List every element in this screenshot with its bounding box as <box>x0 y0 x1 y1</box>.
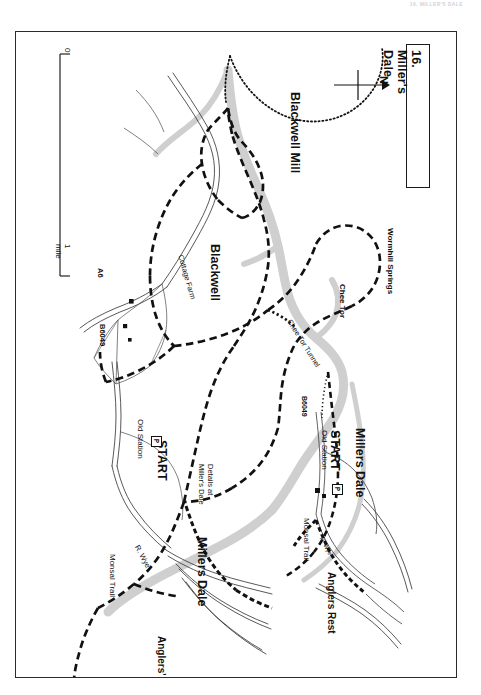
label-inset-road-b6049: B6049 <box>301 396 308 417</box>
inset-note: Details at Miller's Dale <box>196 464 215 505</box>
label-old-station: Old Station <box>136 419 144 459</box>
label-blackwell-mill: Blackwell Mill <box>289 92 302 173</box>
label-anglers-rest: Anglers' Rest <box>156 636 166 678</box>
label-inset-millers-dale: Millers Dale <box>354 428 367 497</box>
north-arrow-icon: N <box>332 62 394 108</box>
scale-bar: 0 1 mile <box>40 48 80 282</box>
label-road-b6049: B6049 <box>99 324 107 346</box>
label-millers-dale: Millers Dale <box>196 537 209 606</box>
inset-note-line2: Miller's Dale <box>196 464 205 505</box>
label-wormhill-springs-line1: Wormhill Springs <box>386 228 394 294</box>
title-cartouche: 16. Miller's Dale <box>406 44 430 188</box>
label-monsal-trail: Monsal Trail <box>108 554 116 597</box>
scale-zero-label: 0 <box>63 48 72 52</box>
parking-symbol-inset-letter: P <box>334 487 342 491</box>
running-head: 16. MILLER'S DALE <box>410 1 463 7</box>
label-inset-anglers-rest: Anglers Rest <box>326 572 336 634</box>
label-blackwell: Blackwell <box>209 244 222 301</box>
label-inset-start: START <box>329 430 342 471</box>
label-chee-tor: Chee Tor <box>338 284 346 318</box>
label-road-a6: A6 <box>97 268 105 278</box>
inset-map-layer: .iwater{fill:none;stroke:#cfcfcf;stroke-… <box>16 32 456 677</box>
inset-note-line1: Details at <box>206 464 215 505</box>
north-label: N <box>378 76 390 84</box>
parking-symbol-main: P <box>151 436 162 447</box>
parking-symbol-main-letter: P <box>153 439 161 443</box>
scale-max-label: 1 mile <box>54 244 72 259</box>
parking-symbol-inset: P <box>332 484 343 495</box>
map-frame: .water {fill:none;stroke:#cfcfcf;stroke-… <box>15 31 457 678</box>
label-inset-monsal-trail: Monsal Trail <box>302 518 310 561</box>
label-inset-old-station: Old Station <box>320 430 328 470</box>
